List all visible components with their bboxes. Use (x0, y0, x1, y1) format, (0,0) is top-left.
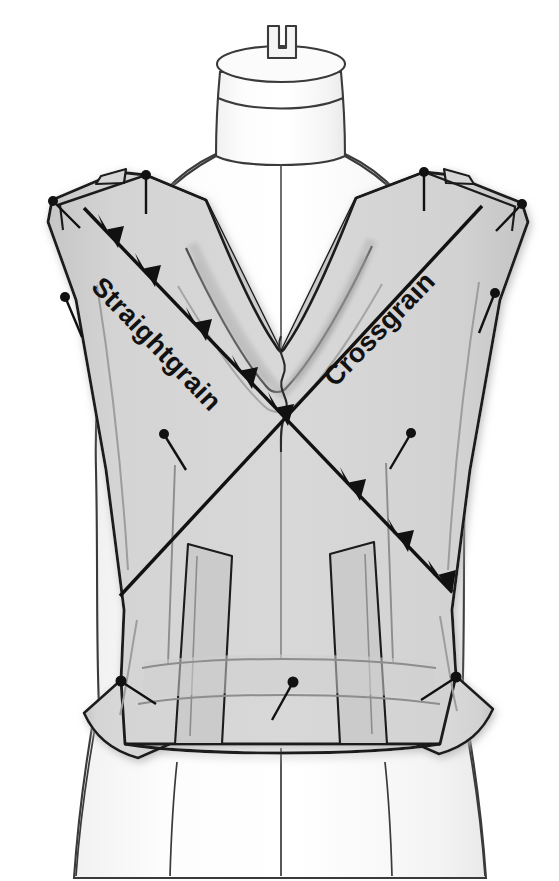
dress-form-neck (216, 72, 345, 165)
draping-illustration-svg: Straightgrain Crossgrain (0, 0, 559, 881)
neck-knob-icon (268, 26, 296, 58)
left-shoulder-tab (96, 169, 126, 184)
illustration-canvas: Straightgrain Crossgrain (0, 0, 559, 881)
